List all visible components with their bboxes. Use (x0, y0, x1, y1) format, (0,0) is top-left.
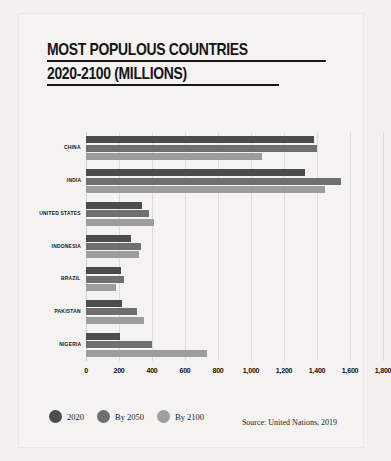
chart-title-line-1: MOST POPULOUS COUNTRIES (47, 40, 326, 62)
bar-group (86, 197, 383, 230)
source-note: Source: United Nations, 2019 (242, 418, 337, 427)
legend-swatch-icon (157, 410, 170, 423)
bar-2020 (86, 333, 120, 340)
category-label: UNITED STATES (39, 210, 81, 216)
bar-by-2100 (86, 317, 144, 324)
category-label: CHINA (64, 144, 81, 150)
category-label: NIGERIA (59, 341, 81, 347)
bar-by-2100 (86, 186, 325, 193)
x-tick-label: 1,200 (276, 366, 293, 375)
bar-by-2050 (86, 145, 317, 152)
bar-by-2050 (86, 276, 124, 283)
x-tick-label: 1,600 (342, 366, 359, 375)
bar-by-2050 (86, 308, 137, 315)
bar-2020 (86, 169, 305, 176)
bar-2020 (86, 235, 131, 242)
bar-by-2100 (86, 284, 116, 291)
x-tick-label: 600 (179, 366, 190, 375)
bar-by-2100 (86, 153, 262, 160)
x-tick-label: 200 (113, 366, 124, 375)
bar-by-2050 (86, 210, 149, 217)
bar-by-2100 (86, 350, 207, 357)
bar-by-2050 (86, 341, 152, 348)
bar-by-2100 (86, 251, 139, 258)
plot-area: CHINAINDIAUNITED STATESINDONESIABRAZILPA… (86, 132, 383, 361)
bar-group (86, 263, 383, 296)
legend-item[interactable]: 2020 (49, 410, 84, 423)
bar-group (86, 328, 383, 361)
bar-by-2100 (86, 219, 154, 226)
bar-2020 (86, 202, 142, 209)
bar-group (86, 296, 383, 329)
x-tick-label: 1,400 (309, 366, 326, 375)
x-tick-label: 800 (212, 366, 223, 375)
bar-2020 (86, 300, 122, 307)
category-label: INDIA (66, 177, 81, 183)
bar-2020 (86, 136, 314, 143)
x-tick-label: 0 (84, 366, 88, 375)
chart-card: MOST POPULOUS COUNTRIES 2020-2100 (MILLI… (19, 14, 363, 447)
legend-swatch-icon (49, 410, 62, 423)
x-tick-label: 1,800 (375, 366, 391, 375)
legend-item[interactable]: By 2050 (97, 410, 144, 423)
legend-label: By 2100 (175, 412, 204, 422)
legend-label: By 2050 (115, 412, 144, 422)
x-axis: 02004006008001,0001,2001,4001,6001,800 (86, 366, 386, 380)
category-label: PAKISTAN (55, 308, 81, 314)
chart-legend: 2020By 2050By 2100 (49, 410, 204, 423)
category-label: BRAZIL (61, 275, 81, 281)
chart-title: MOST POPULOUS COUNTRIES 2020-2100 (MILLI… (47, 40, 337, 88)
x-tick-label: 400 (146, 366, 157, 375)
category-label: INDONESIA (51, 243, 81, 249)
bar-group (86, 230, 383, 263)
bar-group (86, 165, 383, 198)
bar-group (86, 132, 383, 165)
bar-by-2050 (86, 243, 141, 250)
bar-2020 (86, 267, 121, 274)
x-tick-label: 1,000 (243, 366, 260, 375)
gridline (383, 132, 384, 361)
legend-item[interactable]: By 2100 (157, 410, 204, 423)
legend-label: 2020 (67, 412, 84, 422)
bar-by-2050 (86, 178, 341, 185)
chart-title-line-2: 2020-2100 (MILLIONS) (47, 64, 279, 86)
legend-swatch-icon (97, 410, 110, 423)
